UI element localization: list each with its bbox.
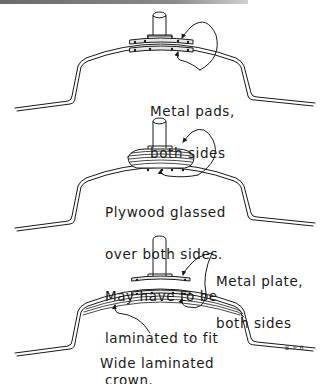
label-metal-plate: Metal plate, both sides [216,246,303,344]
label-line: Metal plate, [216,274,303,288]
label-line: Wide laminated [100,356,214,370]
label-line: May have to be [105,289,226,303]
label-line: both sides [216,316,303,330]
label-line: over both sides. [105,247,226,261]
artist-signature: B.P.B. [285,344,308,351]
label-laminated-beam: Wide laminated beam glassed to underside… [100,328,214,384]
label-line: both sides [150,146,235,160]
label-line: Metal pads, [150,104,235,118]
label-line: Plywood glassed [105,205,226,219]
label-metal-pads: Metal pads, both sides [150,76,235,174]
stanchion-icon [153,12,166,38]
